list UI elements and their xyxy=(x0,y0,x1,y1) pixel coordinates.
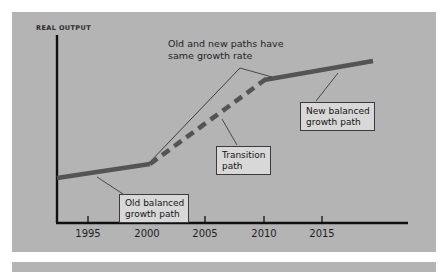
old-balanced-growth-path-callout: Old balanced growth path xyxy=(119,194,189,223)
old-balanced-growth-path-line xyxy=(57,164,150,178)
transition-path-leader xyxy=(222,119,237,145)
x-tick-label-2005: 2005 xyxy=(192,228,217,239)
x-tick-label-2015: 2015 xyxy=(309,228,334,239)
old-path-leader xyxy=(97,177,123,194)
growth-rate-note: Old and new paths have same growth rate xyxy=(168,38,284,61)
transition-path-callout-line1: Transition xyxy=(222,150,266,161)
old-balanced-growth-path-callout-line1: Old balanced xyxy=(125,198,184,209)
growth-rate-note-line2: same growth rate xyxy=(168,50,284,62)
transition-path-callout-line2: path xyxy=(222,161,266,172)
x-tick-label-1995: 1995 xyxy=(75,228,100,239)
growth-rate-note-line1: Old and new paths have xyxy=(168,38,284,50)
x-tick-label-2010: 2010 xyxy=(251,228,276,239)
new-path-leader xyxy=(316,73,338,101)
new-balanced-growth-path-line xyxy=(264,61,373,80)
growth-note-leader xyxy=(240,68,272,77)
figure-page: REAL OUTPUT 1995 2000 2005 2010 2015 Old… xyxy=(0,0,448,272)
old-balanced-growth-path-callout-line2: growth path xyxy=(125,209,184,220)
y-axis-title: REAL OUTPUT xyxy=(36,24,91,32)
new-balanced-growth-path-callout-line2: growth path xyxy=(306,117,370,128)
new-balanced-growth-path-callout: New balanced growth path xyxy=(300,102,375,131)
x-tick-label-2000: 2000 xyxy=(134,228,159,239)
new-balanced-growth-path-callout-line1: New balanced xyxy=(306,106,370,117)
transition-path-callout: Transition path xyxy=(216,146,271,175)
